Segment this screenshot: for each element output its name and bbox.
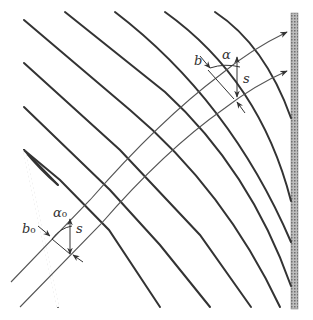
- label-s: s: [243, 72, 250, 85]
- wave-crests: [24, 12, 291, 307]
- diagram-svg: [0, 0, 313, 320]
- label-b0: bo: [22, 222, 36, 235]
- wall: [291, 13, 298, 309]
- label-alpha: α: [222, 48, 231, 61]
- label-b: b: [194, 54, 202, 67]
- label-alpha0: αo: [53, 206, 67, 219]
- refraction-diagram: b α s bo αo s: [0, 0, 313, 320]
- label-s0: s: [76, 222, 83, 235]
- lower-ray: [20, 71, 287, 307]
